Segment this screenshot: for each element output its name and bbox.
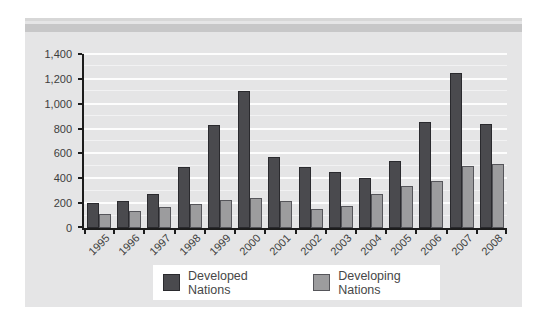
y-axis-labels: 02004006008001,0001,2001,400 bbox=[25, 54, 72, 230]
gridline-900 bbox=[84, 115, 507, 116]
x-axis-label-2006: 2006 bbox=[418, 232, 444, 258]
y-tick-1,000 bbox=[78, 103, 82, 105]
bar-developed-nations-2008 bbox=[480, 124, 492, 228]
x-axis-label-2007: 2007 bbox=[449, 232, 475, 258]
bar-developing-nations-2005 bbox=[401, 186, 413, 228]
bar-developed-nations-2003 bbox=[329, 172, 341, 228]
bar-developing-nations-2002 bbox=[311, 209, 323, 228]
bar-developed-nations-2002 bbox=[299, 167, 311, 228]
bar-developing-nations-2000 bbox=[250, 198, 262, 228]
x-tick-14 bbox=[505, 230, 507, 234]
bar-developed-nations-2000 bbox=[238, 91, 250, 228]
bar-developing-nations-1998 bbox=[190, 204, 202, 228]
gridline-700 bbox=[84, 140, 507, 141]
x-tick-0 bbox=[84, 230, 86, 234]
bar-developed-nations-2001 bbox=[268, 157, 280, 228]
bar-developed-nations-1995 bbox=[87, 203, 99, 228]
bar-developing-nations-1999 bbox=[220, 200, 232, 228]
bar-developed-nations-2004 bbox=[359, 178, 371, 228]
bar-developing-nations-2007 bbox=[462, 166, 474, 228]
x-axis-label-1998: 1998 bbox=[177, 232, 203, 258]
bar-developing-nations-2004 bbox=[371, 194, 383, 228]
legend-label-developed-nations: Developed Nations bbox=[188, 269, 287, 297]
x-tick-1 bbox=[113, 230, 115, 234]
legend-swatch-developing-nations bbox=[313, 274, 330, 291]
bar-developing-nations-1996 bbox=[129, 211, 141, 228]
legend-label-developing-nations: Developing Nations bbox=[338, 269, 440, 297]
x-tick-10 bbox=[385, 230, 387, 234]
y-tick-400 bbox=[78, 177, 82, 179]
bar-developed-nations-2005 bbox=[389, 161, 401, 228]
y-tick-800 bbox=[78, 128, 82, 130]
gridline-1200 bbox=[84, 78, 507, 80]
x-tick-2 bbox=[143, 230, 145, 234]
x-tick-5 bbox=[234, 230, 236, 234]
bar-developing-nations-2001 bbox=[280, 201, 292, 228]
bar-developed-nations-1999 bbox=[208, 125, 220, 228]
bar-developed-nations-1998 bbox=[178, 167, 190, 228]
x-tick-6 bbox=[264, 230, 266, 234]
y-axis-label-1,200: 1,200 bbox=[25, 73, 72, 86]
x-axis-label-2008: 2008 bbox=[479, 232, 505, 258]
x-tick-8 bbox=[325, 230, 327, 234]
gridline-300 bbox=[84, 190, 507, 191]
bar-developed-nations-2007 bbox=[450, 73, 462, 228]
y-axis-label-1,400: 1,400 bbox=[25, 48, 72, 61]
y-axis-label-800: 800 bbox=[25, 123, 72, 136]
x-tick-13 bbox=[476, 230, 478, 234]
y-axis-label-1,000: 1,000 bbox=[25, 98, 72, 111]
x-axis-label-2002: 2002 bbox=[298, 232, 324, 258]
gridline-500 bbox=[84, 165, 507, 166]
x-axis-label-1999: 1999 bbox=[207, 232, 233, 258]
y-tick-600 bbox=[78, 152, 82, 154]
bar-developing-nations-1997 bbox=[159, 207, 171, 228]
gridline-1000 bbox=[84, 103, 507, 105]
x-axis-label-1995: 1995 bbox=[86, 232, 112, 258]
x-tick-12 bbox=[446, 230, 448, 234]
gridline-1300 bbox=[84, 65, 507, 66]
bar-developing-nations-2006 bbox=[431, 181, 443, 228]
x-axis-label-1996: 1996 bbox=[116, 232, 142, 258]
top-band bbox=[25, 24, 522, 32]
x-tick-4 bbox=[204, 230, 206, 234]
y-tick-1,200 bbox=[78, 78, 82, 80]
x-axis-label-2005: 2005 bbox=[388, 232, 414, 258]
x-tick-11 bbox=[415, 230, 417, 234]
gridline-400 bbox=[84, 177, 507, 179]
y-tick-0 bbox=[78, 226, 82, 228]
chart-panel: 02004006008001,0001,2001,400 19951996199… bbox=[25, 18, 522, 307]
bar-developing-nations-1995 bbox=[99, 214, 111, 228]
x-axis-label-2000: 2000 bbox=[237, 232, 263, 258]
legend-swatch-developed-nations bbox=[163, 274, 180, 291]
bar-developed-nations-1996 bbox=[117, 201, 129, 228]
x-axis-label-1997: 1997 bbox=[147, 232, 173, 258]
figure-page: 02004006008001,0001,2001,400 19951996199… bbox=[0, 0, 549, 327]
plot-area bbox=[82, 54, 507, 230]
x-axis-label-2001: 2001 bbox=[267, 232, 293, 258]
bar-developing-nations-2003 bbox=[341, 206, 353, 228]
x-tick-7 bbox=[295, 230, 297, 234]
y-axis-label-200: 200 bbox=[25, 197, 72, 210]
bar-developing-nations-2008 bbox=[492, 164, 504, 228]
x-axis-label-2004: 2004 bbox=[358, 232, 384, 258]
y-axis-label-0: 0 bbox=[25, 222, 72, 235]
x-tick-3 bbox=[174, 230, 176, 234]
x-tick-9 bbox=[355, 230, 357, 234]
top-rule bbox=[25, 18, 522, 21]
bar-developed-nations-1997 bbox=[147, 194, 159, 228]
legend: Developed Nations Developing Nations bbox=[153, 265, 440, 300]
y-tick-200 bbox=[78, 202, 82, 204]
x-axis-label-2003: 2003 bbox=[328, 232, 354, 258]
y-axis-label-600: 600 bbox=[25, 147, 72, 160]
y-tick-1,400 bbox=[78, 53, 82, 55]
gridline-1100 bbox=[84, 90, 507, 91]
bar-developed-nations-2006 bbox=[419, 122, 431, 228]
y-axis-label-400: 400 bbox=[25, 172, 72, 185]
gridline-1400 bbox=[84, 53, 507, 55]
gridline-600 bbox=[84, 152, 507, 154]
gridline-800 bbox=[84, 128, 507, 130]
